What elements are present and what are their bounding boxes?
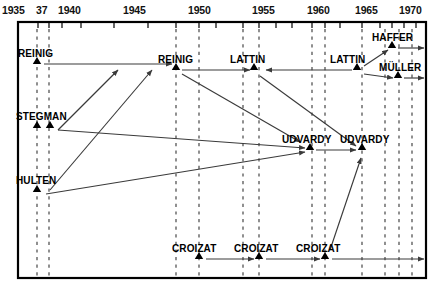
diagram-canvas: 1935371940194519501955196019651970 REINI…: [0, 0, 434, 290]
marker-hulten: [33, 185, 41, 192]
node-label-udvardy2: UDVARDY: [340, 134, 389, 145]
year-label-1940: 1940: [58, 4, 81, 16]
node-label-lattin2: LATTIN: [330, 54, 365, 65]
node-label-hulten: HULTEN: [16, 175, 56, 186]
year-label-1937: 37: [36, 4, 47, 16]
node-label-croizat1: CROIZAT: [172, 243, 216, 254]
node-label-lattin1: LATTIN: [230, 54, 265, 65]
arrow-lattin2-to-muller: [364, 74, 393, 78]
node-label-haffer: HAFFER: [372, 32, 413, 43]
arrow-reinig2-to-udvardy1: [182, 74, 300, 142]
year-label-1970: 1970: [399, 4, 422, 16]
node-label-reinig2: REINIG: [158, 54, 193, 65]
diagram-graphics: [0, 0, 434, 290]
year-label-1955: 1955: [252, 4, 275, 16]
marker-stegman-0: [33, 121, 41, 128]
node-label-reinig1: REINIG: [18, 48, 53, 59]
year-label-1950: 1950: [188, 4, 211, 16]
marker-stegman-1: [46, 121, 54, 128]
arrow-stegman-to-udvardy1: [58, 130, 305, 148]
node-label-croizat3: CROIZAT: [296, 243, 340, 254]
node-label-stegman: STEGMAN: [16, 111, 67, 122]
node-label-udvardy1: UDVARDY: [282, 134, 331, 145]
year-label-1960: 1960: [307, 4, 330, 16]
node-label-croizat2: CROIZAT: [234, 243, 278, 254]
year-label-1935: 1935: [2, 4, 25, 16]
influence-arrows: [44, 48, 424, 259]
year-label-1945: 1945: [123, 4, 146, 16]
year-label-1965: 1965: [355, 4, 378, 16]
node-label-muller: MÜLLER: [379, 62, 421, 73]
arrow-croizat3-to-udvardy2: [330, 158, 361, 250]
